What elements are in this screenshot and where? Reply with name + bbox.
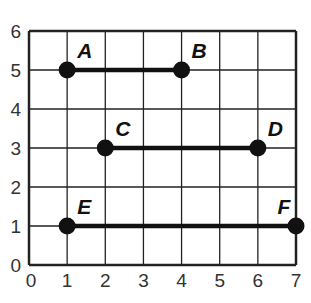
y-tick-label: 2 (10, 177, 21, 198)
point-label-c: C (115, 117, 131, 140)
point-b (173, 62, 190, 79)
x-tick-label: 6 (253, 270, 264, 291)
point-label-f: F (278, 195, 292, 218)
point-label-b: B (192, 39, 207, 62)
x-tick-label: 2 (100, 270, 111, 291)
x-tick-label: 3 (138, 270, 149, 291)
x-tick-label: 1 (62, 270, 73, 291)
coordinate-grid: ABCDEF 01234567 0123456 (0, 0, 311, 303)
point-c (97, 140, 114, 157)
x-axis-ticks: 01234567 (26, 270, 302, 291)
y-axis-ticks: 0123456 (10, 21, 21, 276)
x-tick-label: 5 (214, 270, 225, 291)
point-a (59, 62, 76, 79)
point-label-d: D (268, 117, 283, 140)
y-tick-label: 5 (10, 60, 21, 81)
x-tick-label: 7 (291, 270, 302, 291)
y-tick-label: 1 (10, 216, 21, 237)
point-f (288, 218, 305, 235)
point-d (249, 140, 266, 157)
point-label-e: E (77, 195, 92, 218)
x-tick-label: 0 (26, 270, 37, 291)
point-e (59, 218, 76, 235)
y-tick-label: 3 (10, 138, 21, 159)
y-tick-label: 6 (10, 21, 21, 42)
point-label-a: A (76, 39, 92, 62)
x-tick-label: 4 (176, 270, 187, 291)
y-tick-label: 4 (10, 99, 21, 120)
y-tick-label: 0 (10, 255, 21, 276)
